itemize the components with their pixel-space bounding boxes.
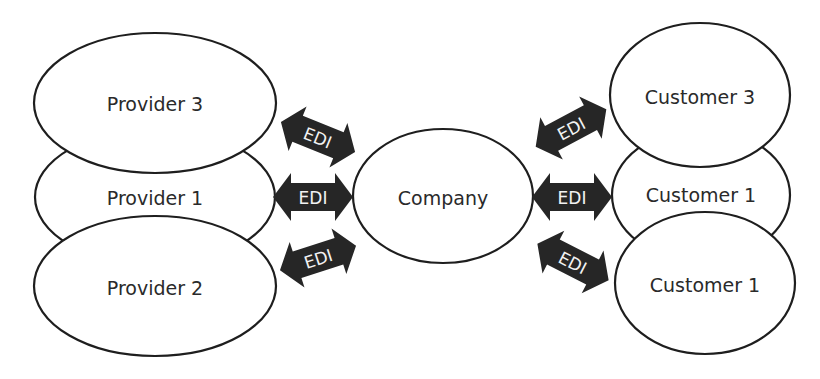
edi-arrow-provider-1: EDI [273, 173, 353, 221]
edi-arrow-provider-2: EDI [273, 223, 364, 293]
edi-arrow-customer-1: EDI [532, 173, 612, 221]
node-label: Customer 1 [650, 274, 760, 296]
node-provider-3: Provider 3 [34, 33, 276, 173]
node-provider-2: Provider 2 [34, 216, 276, 356]
edi-arrow-customer-2: EDI [526, 222, 619, 301]
edi-label: EDI [558, 188, 587, 208]
node-label: Provider 3 [107, 93, 203, 115]
edi-diagram: Provider 1 Provider 3 Provider 2 Company… [0, 0, 820, 379]
node-customer-2: Customer 1 [615, 212, 795, 354]
edi-arrow-customer-3: EDI [524, 88, 617, 168]
node-company: Company [353, 129, 533, 263]
node-label: Provider 2 [107, 277, 203, 299]
node-label: Customer 1 [646, 184, 756, 206]
node-customer-3: Customer 3 [610, 23, 790, 167]
edi-label: EDI [299, 188, 328, 208]
node-label: Company [398, 187, 488, 209]
node-label: Provider 1 [107, 187, 203, 209]
node-label: Customer 3 [645, 86, 755, 108]
edi-arrow-provider-3: EDI [272, 100, 364, 174]
